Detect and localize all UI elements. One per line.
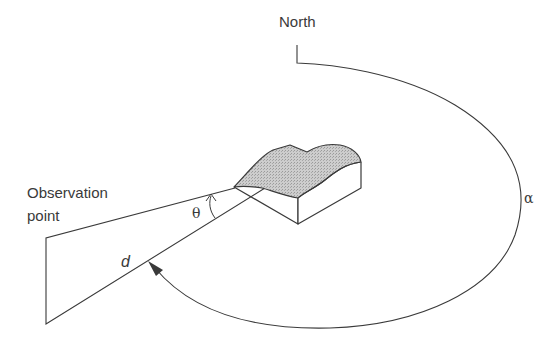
azimuth-alpha-label: α: [524, 190, 534, 206]
theta-label: θ: [192, 205, 200, 221]
terrain-block: [234, 144, 361, 224]
observation-point-label-line1: Observation: [27, 184, 108, 201]
distance-label: d: [121, 253, 131, 270]
north-label: North: [279, 13, 316, 30]
viewshed-geometry-diagram: North Observation point θ d α: [0, 0, 559, 352]
observation-point-label-line2: point: [27, 207, 60, 224]
elevation-angle-marker: [206, 194, 216, 218]
observation-wedge: [46, 188, 265, 324]
